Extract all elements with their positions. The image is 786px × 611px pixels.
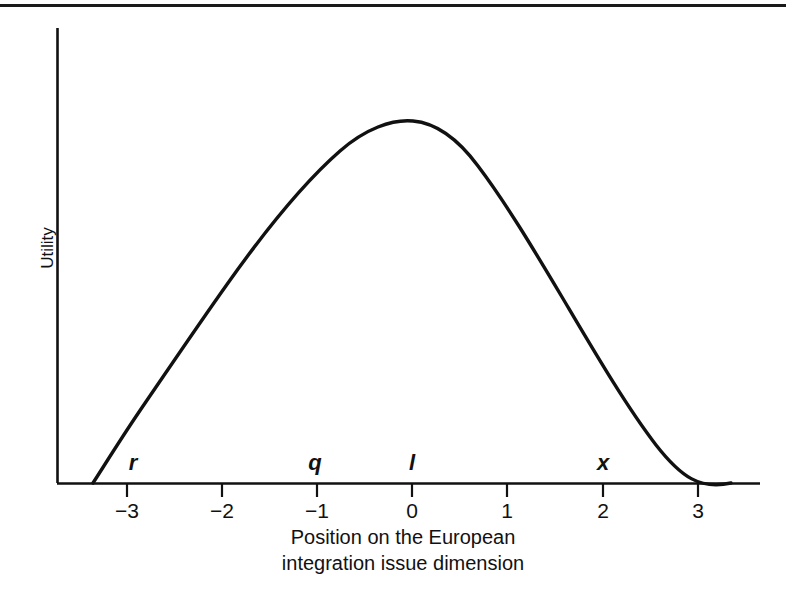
tick-label-1: 1: [477, 500, 537, 521]
tick-label-3: 3: [668, 500, 728, 521]
x-axis-title-line-1: Position on the European: [193, 524, 613, 550]
point-label-x: x: [583, 452, 623, 474]
tick-label-neg1: −1: [287, 500, 347, 521]
tick-label-2: 2: [573, 500, 633, 521]
x-axis-title: Position on the European integration iss…: [193, 524, 613, 577]
point-label-l: l: [392, 452, 432, 474]
x-axis-title-line-2: integration issue dimension: [193, 550, 613, 576]
point-label-q: q: [295, 452, 335, 474]
tick-label-neg3: −3: [97, 500, 157, 521]
point-label-r: r: [113, 452, 153, 474]
y-axis-title: Utility: [38, 188, 58, 308]
figure-canvas: r q l x −3 −2 −1 0 1 2 3 Utility Positio…: [0, 0, 786, 611]
tick-label-neg2: −2: [192, 500, 252, 521]
x-axis-ticks: [127, 484, 698, 497]
tick-label-0: 0: [382, 500, 442, 521]
utility-curve: [93, 121, 731, 485]
